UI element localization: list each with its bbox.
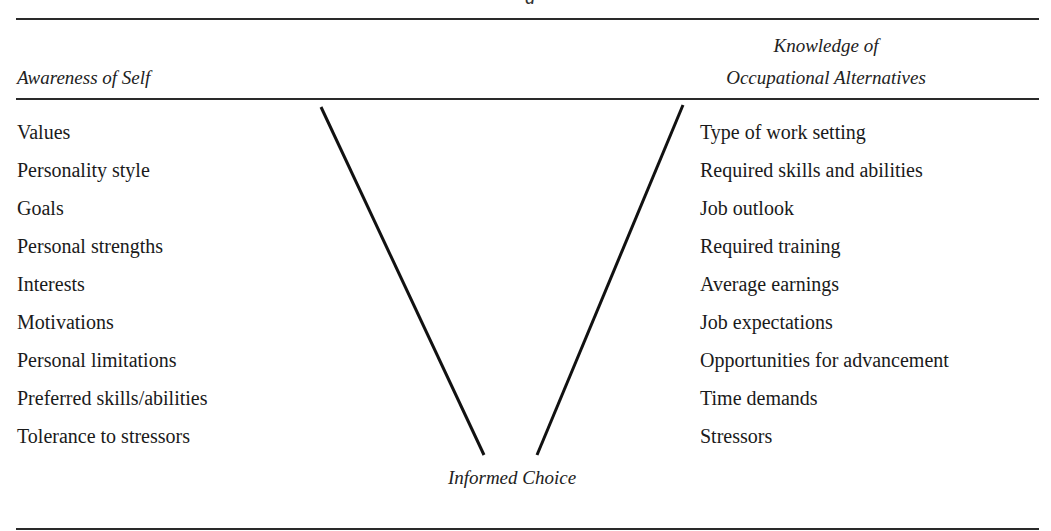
header-awareness-of-self: Awareness of Self (17, 62, 150, 94)
occupational-knowledge-list: Type of work setting Required skills and… (700, 113, 949, 455)
list-item: Type of work setting (700, 113, 949, 151)
list-item: Job outlook (700, 189, 949, 227)
list-item: Personality style (17, 151, 208, 189)
list-item: Average earnings (700, 265, 949, 303)
header-right-line-2: Occupational Alternatives (700, 62, 952, 94)
list-item: Opportunities for advancement (700, 341, 949, 379)
header-right-line-1: Knowledge of (700, 30, 952, 62)
bottom-rule (16, 528, 1039, 530)
list-item: Motivations (17, 303, 208, 341)
figure-title-remnant: g (525, 0, 535, 4)
list-item: Personal limitations (17, 341, 208, 379)
list-item: Preferred skills/abilities (17, 379, 208, 417)
informed-choice-label: Informed Choice (434, 466, 590, 490)
list-item: Goals (17, 189, 208, 227)
list-item: Values (17, 113, 208, 151)
funnel-right-line (537, 105, 683, 455)
list-item: Required training (700, 227, 949, 265)
funnel-left-line (321, 107, 484, 455)
list-item: Job expectations (700, 303, 949, 341)
top-rule (16, 18, 1039, 20)
self-awareness-list: Values Personality style Goals Personal … (17, 113, 208, 455)
list-item: Personal strengths (17, 227, 208, 265)
header-rule (16, 98, 1039, 100)
list-item: Time demands (700, 379, 949, 417)
header-knowledge-of-occupational-alternatives: Knowledge of Occupational Alternatives (700, 30, 952, 94)
list-item: Interests (17, 265, 208, 303)
list-item: Stressors (700, 417, 949, 455)
list-item: Tolerance to stressors (17, 417, 208, 455)
list-item: Required skills and abilities (700, 151, 949, 189)
